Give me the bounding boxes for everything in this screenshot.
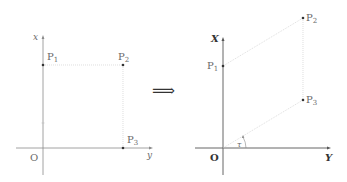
right-line-p1-p2 [223,18,303,66]
right-vertical-axis-label: X [210,33,220,44]
left-point-p2 [122,64,125,67]
right-point-p1 [222,65,225,68]
right-point-p2 [302,17,305,20]
right-vertical-arrowhead-icon [222,37,225,41]
left-diagram: x y O P1 P2 P3 [16,32,153,175]
left-point-p1 [42,64,45,67]
left-vertical-arrowhead-icon [42,35,45,39]
left-horizontal-axis-label: y [146,150,153,160]
right-p2-label: P2 [306,12,317,25]
right-p1-label: P1 [207,60,218,73]
left-p2-label: P2 [118,51,129,64]
left-p3-label: P3 [127,134,138,147]
right-horizontal-arrowhead-icon [327,147,331,150]
right-point-p3 [302,99,305,102]
right-p3-label: P3 [306,94,317,107]
left-origin-label: O [30,152,38,163]
left-p1-label: P1 [47,51,58,64]
left-vertical-axis-label: x [33,32,38,42]
angle-arc [243,137,246,148]
left-point-p3 [122,147,125,150]
right-origin-label: O [210,152,219,163]
left-horizontal-arrowhead-icon [149,147,153,150]
right-horizontal-axis-label: Y [325,152,333,163]
transformation-diagram: x y O P1 P2 P3 ⟹ X Y O τ P1 P2 P3 [0,0,347,182]
angle-label: τ [237,140,242,149]
implies-arrow-icon: ⟹ [152,81,175,100]
right-line-origin-p3 [223,100,303,148]
right-diagram: X Y O τ P1 P2 P3 [195,12,333,175]
